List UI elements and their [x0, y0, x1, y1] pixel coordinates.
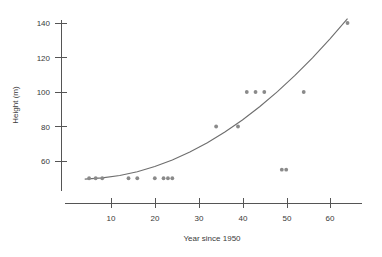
x-tick-label-20: 20 — [151, 214, 160, 223]
x-tick-label-40: 40 — [239, 214, 248, 223]
x-tick-label-10: 10 — [107, 214, 116, 223]
x-axis-title: Year since 1950 — [183, 234, 241, 243]
data-point — [302, 90, 306, 94]
fitted-curve — [85, 19, 348, 180]
data-point — [254, 90, 258, 94]
y-axis-group: 140 120 100 80 60 Height (m) — [11, 19, 67, 191]
data-point — [245, 90, 249, 94]
chart-container: 140 120 100 80 60 Height (m) 10 20 30 — [0, 0, 382, 257]
y-tick-label-80: 80 — [41, 123, 50, 132]
data-point — [100, 176, 104, 180]
x-tick-label-30: 30 — [195, 214, 204, 223]
data-point — [127, 176, 131, 180]
data-point — [170, 176, 174, 180]
data-point — [346, 21, 350, 25]
data-point — [153, 176, 157, 180]
y-axis-title: Height (m) — [11, 86, 20, 124]
x-tick-label-50: 50 — [283, 214, 292, 223]
x-tick-labels: 10 20 30 40 50 60 — [107, 214, 335, 223]
data-point — [162, 176, 166, 180]
data-point — [135, 176, 139, 180]
scatter-plot: 140 120 100 80 60 Height (m) 10 20 30 — [0, 0, 382, 257]
data-point — [87, 176, 91, 180]
data-point — [236, 125, 240, 129]
data-point — [214, 125, 218, 129]
data-point — [284, 168, 288, 172]
data-point — [280, 168, 284, 172]
data-points-layer — [87, 21, 349, 180]
data-point — [166, 176, 170, 180]
data-point — [94, 176, 98, 180]
y-tick-labels: 140 120 100 80 60 — [37, 19, 51, 166]
y-tick-label-60: 60 — [41, 157, 50, 166]
y-tick-label-120: 120 — [37, 54, 51, 63]
data-point — [262, 90, 266, 94]
y-tick-label-100: 100 — [37, 88, 51, 97]
x-tick-label-60: 60 — [326, 214, 335, 223]
x-axis-group: 10 20 30 40 50 60 Year since 1950 — [65, 198, 362, 243]
y-tick-label-140: 140 — [37, 19, 51, 28]
